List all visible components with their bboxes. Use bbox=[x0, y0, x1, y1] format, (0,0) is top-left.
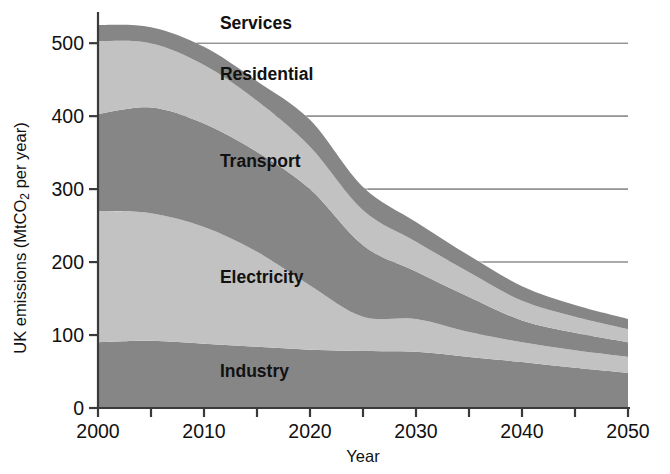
x-axis-title: Year bbox=[346, 447, 380, 465]
series-label-electricity: Electricity bbox=[220, 267, 304, 287]
series-label-services: Services bbox=[220, 13, 292, 33]
chart-canvas: 0100200300400500 20002010202020302040205… bbox=[0, 0, 670, 474]
x-tick-label-2050: 2050 bbox=[606, 420, 650, 442]
series-label-residential: Residential bbox=[220, 64, 313, 84]
x-tick-label-2010: 2010 bbox=[182, 420, 226, 442]
y-tick-label-300: 300 bbox=[51, 178, 84, 200]
stacked-area-chart: 0100200300400500 20002010202020302040205… bbox=[0, 0, 670, 474]
series-label-transport: Transport bbox=[220, 151, 301, 171]
x-tick-label-2040: 2040 bbox=[500, 420, 544, 442]
y-axis-title-text: UK emissions (MtCO2 per year) bbox=[11, 122, 32, 353]
y-axis-title-pre: UK emissions (MtCO bbox=[11, 199, 29, 353]
x-tick-label-2000: 2000 bbox=[76, 420, 120, 442]
y-tick-label-400: 400 bbox=[51, 105, 84, 127]
x-tick-label-2030: 2030 bbox=[394, 420, 438, 442]
y-tick-label-100: 100 bbox=[51, 324, 84, 346]
y-tick-label-0: 0 bbox=[73, 397, 84, 419]
x-tick-label-2020: 2020 bbox=[288, 420, 332, 442]
y-axis-title: UK emissions (MtCO2 per year) bbox=[11, 122, 32, 353]
y-tick-label-200: 200 bbox=[51, 251, 84, 273]
y-tick-label-500: 500 bbox=[51, 32, 84, 54]
series-label-industry: Industry bbox=[220, 361, 289, 381]
y-axis-title-post: per year) bbox=[11, 122, 29, 193]
